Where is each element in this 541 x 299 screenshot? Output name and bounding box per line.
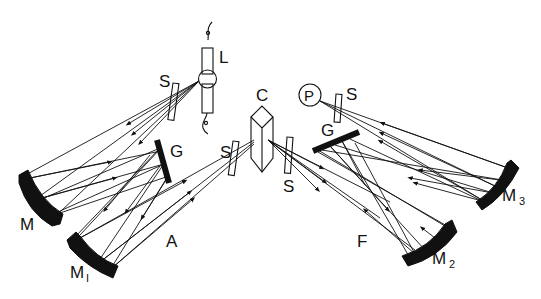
label-M: M	[20, 215, 34, 234]
lamp-lead-loop-bottom	[204, 121, 207, 124]
mirror-M3: M 3	[476, 160, 525, 210]
label-G-left: G	[170, 142, 183, 161]
label-S-prism-in: S	[220, 143, 231, 162]
slit-prism-out: S	[283, 137, 294, 196]
label-S-entrance: S	[159, 72, 170, 91]
mirror-M: M	[19, 170, 63, 234]
label-section-F: F	[357, 232, 367, 251]
label-M2: M	[432, 249, 446, 268]
lamp-L: L	[199, 22, 229, 134]
lamp-bulb	[199, 70, 217, 88]
label-M1: M	[70, 263, 84, 282]
detector-P: P	[299, 84, 321, 106]
label-L: L	[219, 48, 228, 67]
label-G-right: G	[321, 121, 334, 140]
label-section-A: A	[166, 232, 178, 251]
rays-M3-to-detector	[320, 101, 508, 200]
label-S-detector: S	[346, 85, 357, 104]
mirror-M1: M I	[67, 232, 118, 284]
label-M1-sub: I	[86, 272, 89, 284]
slit-prism-in: S	[220, 141, 239, 176]
grating-left: G	[157, 140, 183, 183]
label-S-prism-out: S	[283, 177, 294, 196]
optical-diagram: L S M G	[0, 0, 541, 299]
grating-right-body	[313, 132, 359, 151]
prism-C: C	[251, 86, 273, 172]
slit-detector-body	[334, 94, 342, 122]
label-C: C	[256, 86, 268, 105]
label-M3-sub: 3	[519, 195, 525, 207]
label-M2-sub: 2	[449, 258, 455, 270]
label-P: P	[304, 87, 314, 104]
prism-C-edges	[251, 117, 273, 172]
label-M3: M	[502, 186, 516, 205]
grating-right: G	[313, 121, 359, 151]
grating-left-body	[157, 140, 169, 183]
